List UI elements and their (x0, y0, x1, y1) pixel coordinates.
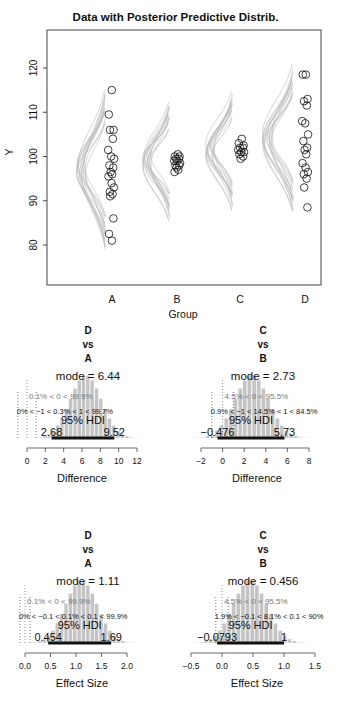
x-tick-label: −2 (196, 456, 206, 466)
x-tick-label: 0 (220, 456, 225, 466)
x-tick-label-B: B (173, 293, 180, 305)
histogram-bar (125, 436, 129, 438)
x-tick-label: 1.5 (309, 661, 321, 671)
x-tick-label: 2.0 (121, 661, 133, 671)
x-axis-label: Effect Size (56, 677, 108, 689)
y-tick-label: 100 (28, 148, 39, 165)
x-tick-label: 10 (114, 456, 124, 466)
data-point (304, 204, 312, 212)
x-tick-label: 0.5 (247, 661, 259, 671)
x-tick-label: 2 (242, 456, 247, 466)
hdi-label: 95% HDI (229, 619, 273, 631)
histogram-bar (298, 437, 302, 438)
histogram-bar (129, 437, 133, 438)
panel-title-line: D (84, 530, 91, 541)
hdi-high-label: 9.52 (104, 426, 125, 438)
x-tick-label: −0.5 (183, 661, 200, 671)
hdi-label: 95% HDI (229, 414, 273, 426)
y-tick-label: 90 (28, 195, 39, 207)
pp-curve (149, 107, 170, 207)
panel-3: DvsAmode = 1.110.1% < 0 < 99.9%0% < −0.1… (19, 530, 138, 689)
panel-title-line: vs (82, 339, 94, 350)
x-tick-label: 1.0 (70, 661, 82, 671)
data-point (108, 86, 116, 94)
x-tick-label: 8 (307, 456, 312, 466)
panel-title-line: vs (82, 544, 94, 555)
mode-label: mode = 1.11 (56, 575, 119, 587)
y-tick-label: 80 (28, 239, 39, 251)
x-tick-label: 1.0 (278, 661, 290, 671)
pp-curve (148, 117, 170, 208)
hdi-label: 95% HDI (58, 619, 102, 631)
mode-label: mode = 2.73 (231, 370, 295, 382)
panel-title-line: vs (257, 544, 269, 555)
data-point (300, 184, 308, 192)
y-tick-label: 110 (28, 104, 39, 120)
x-tick-label: 0.0 (216, 661, 228, 671)
histogram-bar (292, 641, 296, 643)
hdi-low-label: 2.68 (41, 426, 62, 438)
data-point (110, 215, 118, 223)
panel-title-line: C (259, 530, 266, 541)
mode-label: mode = 0.456 (228, 575, 299, 587)
x-tick-label: 6 (80, 456, 85, 466)
comp-val-label: 4.5% < 0 < 95.5% (225, 392, 289, 401)
panel-title-line: C (259, 325, 266, 336)
panel-title-line: B (259, 558, 266, 569)
x-tick-label: 4 (61, 456, 66, 466)
posterior-predictive-curves (77, 64, 294, 249)
x-tick-label: 4 (263, 456, 268, 466)
main-title: Data with Posterior Predictive Distrib. (73, 11, 279, 23)
panel-4: CvsBmode = 0.4564.5% < 0 < 95.5%1.9% < −… (183, 530, 324, 689)
mode-label: mode = 6.44 (56, 370, 121, 382)
data-point (108, 237, 116, 245)
hdi-high-label: 5.73 (274, 426, 295, 438)
panel-title-line: B (259, 353, 266, 364)
hdi-high-label: 1 (281, 631, 287, 643)
panel-2: CvsBmode = 2.734.5% < 0 < 95.5%0.9% < −1… (192, 325, 318, 484)
panel-title-line: D (84, 325, 91, 336)
histogram-bar (274, 623, 278, 643)
x-tick-label: 6 (285, 456, 290, 466)
histogram-bar (125, 642, 129, 643)
pp-curve (207, 109, 232, 195)
x-tick-label-D: D (301, 293, 309, 305)
data-point (109, 135, 117, 143)
x-tick-label-A: A (108, 293, 115, 305)
figure: Data with Posterior Predictive Distrib.8… (0, 0, 351, 726)
histogram-bar (287, 639, 291, 643)
comp-val-label: 0.1% < 0 < 99.9% (29, 392, 93, 401)
comp-val-label: 0.1% < 0 < 99.9% (27, 597, 91, 606)
data-point (108, 179, 116, 187)
x-axis-label: Difference (57, 472, 107, 484)
pp-curve (263, 64, 293, 206)
x-tick-label: 12 (132, 456, 142, 466)
x-tick-label: 1.5 (96, 661, 108, 671)
panel-title-line: vs (257, 339, 269, 350)
x-axis-label: Difference (232, 472, 282, 484)
y-axis-label: Y (3, 148, 15, 155)
data-point (106, 193, 114, 201)
x-axis-label: Group (168, 308, 197, 320)
plot-frame (47, 30, 321, 285)
comp-val-label: 4.5% < 0 < 95.5% (224, 597, 288, 606)
hdi-high-label: 1.69 (100, 631, 121, 643)
panel-title-line: A (84, 353, 91, 364)
data-point (105, 111, 113, 119)
panel-title-line: A (84, 558, 91, 569)
hdi-low-label: 0.454 (34, 631, 62, 643)
data-point (304, 131, 312, 139)
hdi-low-label: −0.476 (200, 426, 234, 438)
y-tick-label: 120 (28, 59, 39, 76)
hdi-label: 95% HDI (61, 414, 105, 426)
hdi-low-label: −0.0793 (197, 631, 237, 643)
panel-1: DvsAmode = 6.440.1% < 0 < 99.9%0% < −1 <… (17, 325, 142, 484)
x-tick-label: 8 (98, 456, 103, 466)
x-tick-label: 0.0 (19, 661, 31, 671)
histogram-bar (297, 642, 301, 643)
x-tick-label: 2 (43, 456, 48, 466)
x-axis-label: Effect Size (231, 677, 283, 689)
x-tick-label-C: C (236, 293, 244, 305)
x-tick-label: 0 (25, 456, 30, 466)
x-tick-label: 0.5 (45, 661, 57, 671)
